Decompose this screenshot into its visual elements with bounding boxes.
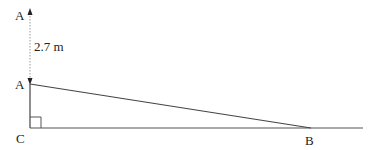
- right-angle-marker: [30, 117, 41, 128]
- label-C: C: [16, 131, 25, 146]
- arrow-up-icon: [28, 8, 33, 15]
- ladder-segment-AB: [30, 84, 311, 128]
- label-A-top: A: [15, 8, 25, 23]
- label-A: A: [15, 77, 25, 92]
- measurement-label: 2.7 m: [34, 39, 64, 54]
- label-B: B: [305, 133, 314, 148]
- ladder-triangle-diagram: A A C B 2.7 m: [0, 0, 373, 150]
